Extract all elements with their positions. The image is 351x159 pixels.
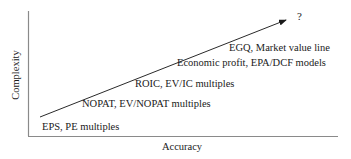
level-label-nopat: NOPAT, EV/NOPAT multiples [82, 99, 211, 110]
level-label-roic: ROIC, EV/IC multiples [135, 79, 234, 90]
arrow-end-question-mark: ? [297, 11, 302, 22]
complexity-accuracy-diagram: Complexity Accuracy ? EPS, PE multiples … [0, 0, 351, 159]
level-label-economic-profit: Economic profit, EPA/DCF models [177, 58, 326, 69]
level-label-eps: EPS, PE multiples [42, 122, 119, 133]
y-axis-label: Complexity [11, 50, 22, 100]
x-axis-label: Accuracy [162, 142, 202, 153]
level-label-egq: EGQ, Market value line [229, 43, 330, 54]
